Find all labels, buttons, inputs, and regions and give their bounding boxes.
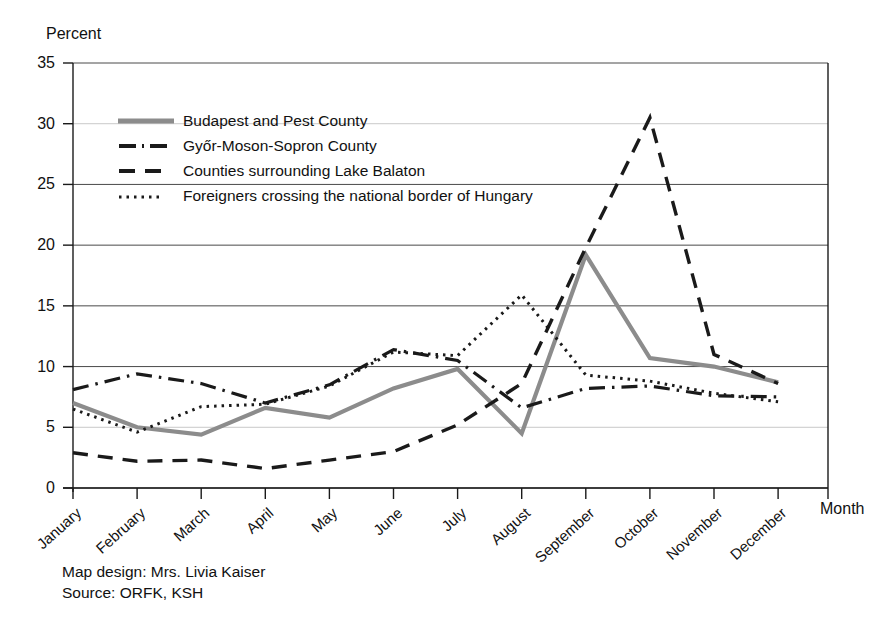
legend-label-foreigners: Foreigners crossing the national border … (183, 188, 533, 204)
y-tick-15: 15 (25, 297, 55, 315)
y-tick-30: 30 (25, 115, 55, 133)
legend-label-gyor: Győr-Moson-Sopron County (183, 138, 377, 154)
y-axis-title: Percent (46, 25, 101, 43)
x-axis-title: Month (820, 500, 864, 518)
legend-item: Foreigners crossing the national border … (118, 183, 533, 208)
y-tick-35: 35 (25, 54, 55, 72)
footer-source: Source: ORFK, KSH (62, 583, 265, 604)
y-tick-5: 5 (25, 418, 55, 436)
series-line-0 (73, 255, 778, 435)
footer-map-design: Map design: Mrs. Livia Kaiser (62, 562, 265, 583)
chart-legend: Budapest and Pest County Győr-Moson-Sopr… (118, 108, 533, 208)
legend-item: Counties surrounding Lake Balaton (118, 158, 533, 183)
y-tick-0: 0 (25, 479, 55, 497)
legend-item: Győr-Moson-Sopron County (118, 133, 533, 158)
legend-item: Budapest and Pest County (118, 108, 533, 133)
legend-swatch-gyor (118, 139, 174, 153)
legend-label-balaton: Counties surrounding Lake Balaton (183, 163, 425, 179)
chart-figure: Percent Month 35302520151050 JanuaryFebr… (0, 0, 887, 624)
legend-swatch-budapest (118, 114, 174, 128)
y-tick-10: 10 (25, 358, 55, 376)
y-tick-25: 25 (25, 175, 55, 193)
y-tick-20: 20 (25, 236, 55, 254)
series-line-3 (73, 295, 778, 432)
legend-swatch-foreigners (118, 189, 174, 203)
chart-footer: Map design: Mrs. Livia Kaiser Source: OR… (62, 562, 265, 604)
legend-swatch-balaton (118, 164, 174, 178)
legend-label-budapest: Budapest and Pest County (183, 113, 367, 129)
